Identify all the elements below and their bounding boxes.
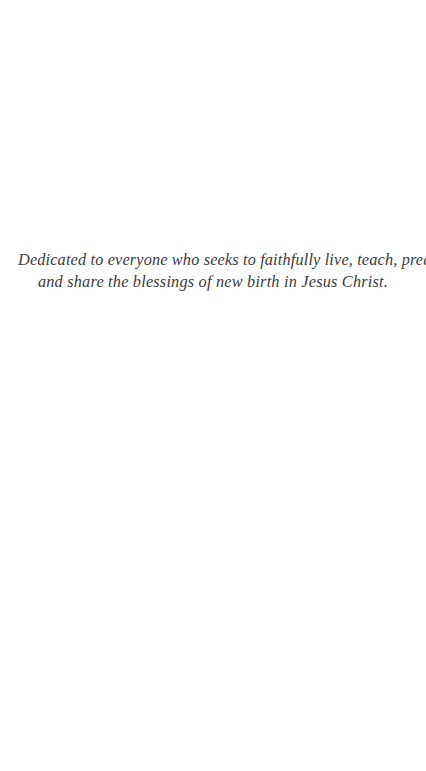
document-page: Dedicated to everyone who seeks to faith…	[0, 0, 426, 771]
dedication-text-block: Dedicated to everyone who seeks to faith…	[0, 249, 426, 293]
dedication-line-1: Dedicated to everyone who seeks to faith…	[18, 249, 408, 271]
dedication-line-2: and share the blessings of new birth in …	[18, 271, 408, 293]
